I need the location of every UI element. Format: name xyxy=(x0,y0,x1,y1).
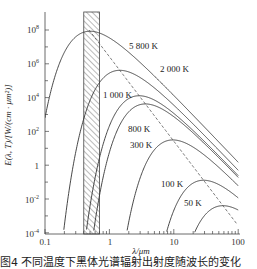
label-1000k: 1 000 K xyxy=(103,90,133,100)
figure-caption: 图4 不同温度下黑体光谱辐射出射度随波长的变化 xyxy=(0,253,257,269)
curve-1000k xyxy=(87,96,239,230)
label-2000k: 2 000 K xyxy=(160,64,190,74)
visible-band xyxy=(84,12,100,234)
y-tick-1e-2: 10-2 xyxy=(25,194,39,205)
y-tick-1e4: 104 xyxy=(27,92,39,103)
label-800k: 800 K xyxy=(128,124,151,134)
y-tick-1e-4: 10-4 xyxy=(25,228,39,239)
y-tick-1e2: 102 xyxy=(27,126,39,137)
curve-50k xyxy=(195,206,238,233)
y-tick-labels: 108 106 104 102 1 10-2 10-4 xyxy=(25,24,39,239)
x-tick-100: 100 xyxy=(231,237,245,247)
label-50k: 50 K xyxy=(184,198,202,208)
x-tick-0.1: 0.1 xyxy=(39,237,50,247)
y-axis-title: E(λ, T)/[W/(cm · μm²)] xyxy=(3,84,13,167)
curve-800k xyxy=(94,104,238,231)
wien-displacement-line xyxy=(89,30,237,224)
x-tick-1: 1 xyxy=(108,237,113,247)
y-tick-1: 1 xyxy=(35,161,40,171)
label-5800k: 5 800 K xyxy=(129,41,159,51)
x-tick-10: 10 xyxy=(170,237,180,247)
curve-labels: 5 800 K 2 000 K 1 000 K 800 K 300 K 100 … xyxy=(103,41,202,208)
label-100k: 100 K xyxy=(161,179,184,189)
y-tick-1e6: 106 xyxy=(27,58,39,69)
y-tick-1e8: 108 xyxy=(27,24,39,35)
label-300k: 300 K xyxy=(130,140,153,150)
